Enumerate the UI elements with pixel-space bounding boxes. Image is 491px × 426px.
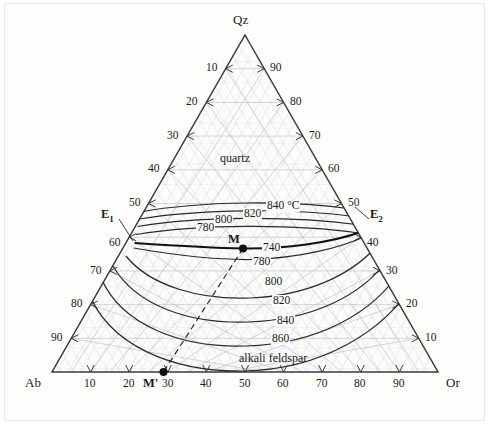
tick-bottom-10: 10 — [84, 378, 96, 390]
tick-right-60: 60 — [328, 163, 340, 175]
tick-left-30: 30 — [167, 130, 179, 142]
tick-left-50: 50 — [129, 197, 141, 209]
leader-E1 — [119, 219, 133, 241]
tick-left-40: 40 — [148, 163, 160, 175]
phase-field-label-quartz: quartz — [220, 152, 250, 164]
point-label-e1-sub: 1 — [109, 214, 114, 224]
tick-right-80: 80 — [290, 96, 302, 108]
point-label-m-prime: M' — [143, 377, 158, 390]
isotherm-label-840-feldspar: 840 — [276, 315, 295, 327]
tick-left-10: 10 — [206, 62, 218, 74]
figure-root: Qz Ab Or 10 20 30 40 50 60 70 80 90 90 8… — [0, 0, 491, 426]
tick-left-80: 80 — [71, 298, 83, 310]
tick-bottom-50: 50 — [239, 378, 251, 390]
tick-bottom-20: 20 — [123, 378, 135, 390]
vertex-label-ab: Ab — [25, 376, 41, 389]
point-M-marker — [239, 245, 247, 253]
tick-right-40: 40 — [367, 237, 379, 249]
phase-field-label-alkali-feldspar: alkali feldspar — [239, 352, 307, 364]
tick-right-90: 90 — [270, 62, 282, 74]
point-label-e2-sub: 2 — [378, 214, 383, 224]
tick-bottom-30: 30 — [162, 378, 174, 390]
isotherm-label-860-feldspar: 860 — [271, 333, 290, 345]
isotherm-label-800-feldspar: 800 — [264, 276, 283, 288]
point-label-e1: E1 — [101, 208, 114, 224]
point-label-m: M — [228, 233, 240, 246]
tick-left-70: 70 — [90, 265, 102, 277]
leader-E2 — [355, 207, 369, 219]
tick-left-90: 90 — [51, 332, 63, 344]
isotherm-label-840-quartz: 840 °C — [266, 200, 300, 212]
isotherm-label-780-quartz: 780 — [196, 222, 215, 234]
point-Mprime-marker — [160, 368, 168, 376]
tick-right-50: 50 — [348, 197, 360, 209]
tick-bottom-70: 70 — [316, 378, 328, 390]
tick-bottom-90: 90 — [393, 378, 405, 390]
isotherm-label-740-cotectic: 740 — [262, 242, 281, 254]
tick-right-70: 70 — [309, 130, 321, 142]
tick-right-20: 20 — [406, 298, 418, 310]
tick-left-60: 60 — [109, 237, 121, 249]
tick-right-30: 30 — [386, 265, 398, 277]
isotherm-label-820-feldspar: 820 — [272, 295, 291, 307]
tick-bottom-80: 80 — [354, 378, 366, 390]
isotherm-label-800-quartz: 800 — [214, 214, 233, 226]
tick-bottom-40: 40 — [200, 378, 212, 390]
vertex-label-qz: Qz — [233, 13, 248, 26]
isotherm-label-820-quartz: 820 — [243, 208, 262, 220]
isotherm-label-780-cotectic: 780 — [252, 256, 271, 268]
tick-left-20: 20 — [186, 96, 198, 108]
point-label-e2: E2 — [370, 208, 383, 224]
tick-bottom-60: 60 — [277, 378, 289, 390]
tick-right-10: 10 — [425, 332, 437, 344]
vertex-label-or: Or — [446, 376, 460, 389]
